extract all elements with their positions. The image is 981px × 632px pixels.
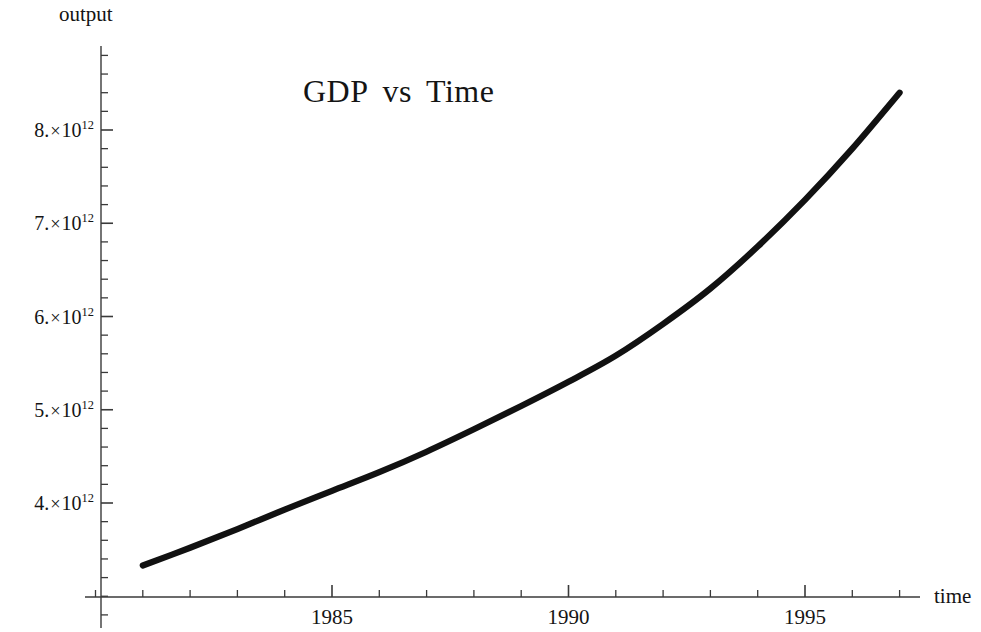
chart-title-word-3: Time — [426, 73, 494, 109]
y-tick-mantissa: 7. — [34, 212, 49, 234]
y-tick-exponent: 12 — [82, 118, 94, 132]
x-axis-tick-label: 1990 — [548, 607, 590, 628]
x-axis-tick-label: 1985 — [311, 607, 353, 628]
y-tick-base: 10 — [62, 119, 82, 141]
y-tick-exponent: 12 — [82, 398, 94, 412]
x-axis-ticks — [96, 585, 900, 597]
multiplication-sign-icon: × — [49, 121, 61, 141]
y-tick-base: 10 — [62, 212, 82, 234]
y-axis-tick-label: 5.×1012 — [34, 400, 94, 420]
gdp-vs-time-chart: output time GDPvsTime 4.×10125.×10126.×1… — [0, 0, 981, 632]
multiplication-sign-icon: × — [49, 494, 61, 514]
y-axis-ticks — [101, 55, 113, 615]
y-tick-exponent: 12 — [82, 305, 94, 319]
chart-title-word-2: vs — [383, 73, 412, 109]
y-tick-exponent: 12 — [82, 211, 94, 225]
y-axis-tick-label: 6.×1012 — [34, 306, 94, 326]
y-axis-tick-label: 8.×1012 — [34, 120, 94, 140]
chart-title: GDPvsTime — [303, 75, 494, 107]
multiplication-sign-icon: × — [49, 401, 61, 421]
y-tick-base: 10 — [62, 492, 82, 514]
y-tick-mantissa: 4. — [34, 492, 49, 514]
chart-title-word-1: GDP — [303, 73, 369, 109]
x-axis-tick-label: 1995 — [784, 607, 826, 628]
gdp-line-series — [143, 93, 900, 566]
y-tick-base: 10 — [62, 399, 82, 421]
y-tick-mantissa: 6. — [34, 305, 49, 327]
x-axis-title: time — [934, 586, 971, 607]
y-axis-tick-label: 7.×1012 — [34, 213, 94, 233]
y-tick-mantissa: 5. — [34, 399, 49, 421]
data-series-group — [143, 93, 900, 566]
multiplication-sign-icon: × — [49, 214, 61, 234]
multiplication-sign-icon: × — [49, 307, 61, 327]
y-axis-title: output — [59, 4, 113, 25]
y-tick-mantissa: 8. — [34, 119, 49, 141]
y-axis-tick-label: 4.×1012 — [34, 493, 94, 513]
y-tick-base: 10 — [62, 305, 82, 327]
y-tick-exponent: 12 — [82, 491, 94, 505]
